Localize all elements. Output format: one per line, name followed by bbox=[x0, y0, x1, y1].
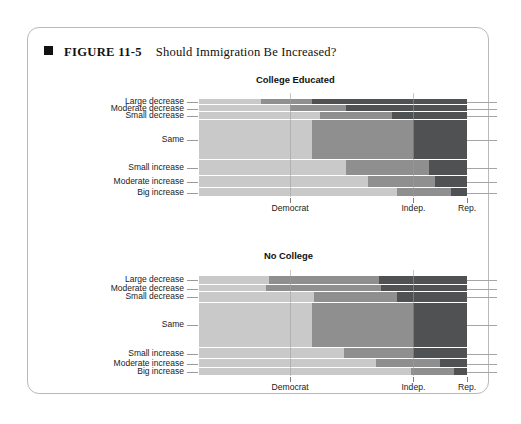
x-axis-label-democrat: Democrat bbox=[271, 203, 308, 213]
bar-segment-democrat bbox=[199, 303, 312, 347]
bar-segment-democrat bbox=[199, 160, 346, 175]
y-axis-label: Same bbox=[28, 135, 184, 144]
bar-segment-rep bbox=[312, 99, 467, 104]
bar-segment-rep bbox=[392, 112, 467, 119]
bar-segment-indep bbox=[266, 285, 381, 291]
x-axis-label-democrat: Democrat bbox=[271, 382, 308, 392]
x-axis-label-rep: Rep. bbox=[458, 203, 476, 213]
bar-segment-rep bbox=[429, 160, 467, 175]
y-axis-tick-right bbox=[467, 325, 497, 326]
plot-area-college-educated bbox=[199, 99, 467, 197]
bar-segment-democrat bbox=[199, 188, 397, 195]
bar-row bbox=[199, 292, 467, 302]
bar-row bbox=[199, 160, 467, 175]
bar-segment-rep bbox=[454, 368, 467, 374]
y-axis-label: Small increase bbox=[28, 349, 184, 358]
bar-segment-rep bbox=[440, 359, 467, 367]
bar-row bbox=[199, 285, 467, 291]
y-axis-tick bbox=[187, 140, 198, 141]
bar-row bbox=[199, 276, 467, 284]
y-axis-label: Moderate increase bbox=[28, 177, 184, 186]
bar-segment-rep bbox=[379, 276, 467, 284]
y-axis-tick bbox=[187, 168, 198, 169]
x-axis-label-indep: Indep. bbox=[401, 203, 425, 213]
bar-segment-rep bbox=[381, 285, 467, 291]
y-axis-tick-right bbox=[467, 354, 497, 355]
figure-card: FIGURE 11-5 Should Immigration Be Increa… bbox=[27, 27, 489, 394]
bar-row bbox=[199, 359, 467, 367]
y-axis-tick-right bbox=[467, 297, 497, 298]
y-axis-label: Small decrease bbox=[28, 292, 184, 301]
y-axis-tick bbox=[187, 116, 198, 117]
y-axis-tick-right bbox=[467, 289, 497, 290]
bar-segment-indep bbox=[261, 99, 312, 104]
y-axis-label: Small increase bbox=[28, 163, 184, 172]
y-axis-tick-right bbox=[467, 182, 497, 183]
bar-segment-indep bbox=[312, 303, 414, 347]
bar-row bbox=[199, 368, 467, 374]
panel-title-no-college: No College bbox=[264, 250, 313, 261]
y-axis-tick-right bbox=[467, 102, 497, 103]
x-gridline bbox=[413, 93, 414, 197]
bar-segment-democrat bbox=[199, 368, 411, 374]
y-axis-tick-right bbox=[467, 280, 497, 281]
bar-segment-indep bbox=[376, 359, 440, 367]
bar-segment-rep bbox=[435, 176, 467, 187]
bar-segment-indep bbox=[320, 112, 392, 119]
panel-title-college-educated: College Educated bbox=[256, 74, 335, 85]
y-axis-tick bbox=[187, 280, 198, 281]
figure-number: FIGURE 11-5 bbox=[64, 45, 142, 60]
black-square-icon bbox=[44, 46, 53, 55]
bar-segment-indep bbox=[397, 188, 451, 195]
bar-segment-indep bbox=[411, 368, 454, 374]
bar-row bbox=[199, 176, 467, 187]
bar-segment-democrat bbox=[199, 112, 320, 119]
bar-row bbox=[199, 120, 467, 159]
bar-segment-indep bbox=[344, 348, 414, 358]
bar-row bbox=[199, 112, 467, 119]
y-axis-tick-right bbox=[467, 372, 497, 373]
bar-segment-democrat bbox=[199, 348, 344, 358]
x-gridline bbox=[290, 93, 291, 197]
bar-segment-democrat bbox=[199, 105, 290, 111]
x-axis-label-rep: Rep. bbox=[458, 382, 476, 392]
bar-row bbox=[199, 303, 467, 347]
bar-segment-democrat bbox=[199, 359, 376, 367]
bar-segment-rep bbox=[397, 292, 467, 302]
bar-segment-indep bbox=[346, 160, 429, 175]
y-axis-tick bbox=[187, 354, 198, 355]
bar-segment-indep bbox=[312, 120, 414, 159]
bar-segment-democrat bbox=[199, 120, 312, 159]
bar-segment-rep bbox=[346, 105, 467, 111]
bar-row bbox=[199, 348, 467, 358]
y-axis-tick bbox=[187, 364, 198, 365]
y-axis-tick bbox=[187, 372, 198, 373]
y-axis-label: Small decrease bbox=[28, 111, 184, 120]
y-axis-tick bbox=[187, 289, 198, 290]
y-axis-tick-right bbox=[467, 140, 497, 141]
bar-segment-rep bbox=[451, 188, 467, 195]
bar-segment-indep bbox=[368, 176, 435, 187]
y-axis-tick-right bbox=[467, 193, 497, 194]
y-axis-tick-right bbox=[467, 109, 497, 110]
figure-page: FIGURE 11-5 Should Immigration Be Increa… bbox=[0, 0, 521, 424]
y-axis-tick bbox=[187, 182, 198, 183]
bar-segment-rep bbox=[413, 120, 467, 159]
bar-segment-indep bbox=[314, 292, 397, 302]
x-gridline bbox=[413, 270, 414, 376]
x-axis-label-indep: Indep. bbox=[401, 382, 425, 392]
y-axis-tick bbox=[187, 325, 198, 326]
bar-segment-democrat bbox=[199, 292, 314, 302]
y-axis-label: Big increase bbox=[28, 188, 184, 197]
bar-row bbox=[199, 105, 467, 111]
bar-segment-indep bbox=[290, 105, 346, 111]
bar-segment-democrat bbox=[199, 99, 261, 104]
y-axis-tick-right bbox=[467, 364, 497, 365]
bar-segment-rep bbox=[413, 348, 467, 358]
bar-row bbox=[199, 99, 467, 104]
y-axis-tick bbox=[187, 109, 198, 110]
x-gridline bbox=[290, 270, 291, 376]
figure-title: Should Immigration Be Increased? bbox=[156, 45, 337, 60]
y-axis-tick-right bbox=[467, 168, 497, 169]
y-axis-tick bbox=[187, 193, 198, 194]
